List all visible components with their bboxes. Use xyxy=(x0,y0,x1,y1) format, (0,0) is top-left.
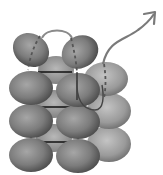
top-arc xyxy=(42,31,72,39)
sphere xyxy=(56,139,100,173)
sphere xyxy=(9,138,53,172)
front-left-column xyxy=(9,71,53,172)
sphere xyxy=(9,71,53,105)
sphere xyxy=(56,73,100,107)
exit-path xyxy=(103,14,154,64)
sphere-stack-diagram xyxy=(0,0,163,175)
sphere xyxy=(9,104,53,138)
front-middle-column xyxy=(56,73,100,173)
illustration xyxy=(0,0,163,175)
